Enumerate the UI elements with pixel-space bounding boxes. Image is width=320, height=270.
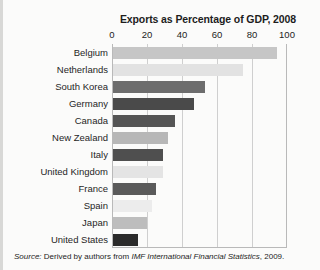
source-text: Derived by authors from — [44, 252, 129, 261]
x-tick-60: 60 — [212, 29, 223, 40]
category-label-netherlands: Netherlands — [4, 64, 108, 75]
chart-title: Exports as Percentage of GDP, 2008 — [108, 13, 308, 25]
bar-japan — [112, 217, 147, 229]
category-label-italy: Italy — [4, 149, 108, 160]
bar-germany — [112, 98, 194, 110]
bar-row — [112, 44, 287, 61]
bar-france — [112, 183, 156, 195]
category-label-france: France — [4, 183, 108, 194]
figure-left-edge — [0, 0, 3, 270]
bar-row — [112, 112, 287, 129]
category-label-new-zealand: New Zealand — [4, 132, 108, 143]
x-tick-80: 80 — [247, 29, 258, 40]
bar-row — [112, 129, 287, 146]
x-tick-100: 100 — [279, 29, 295, 40]
bar-netherlands — [112, 64, 243, 76]
bar-canada — [112, 115, 175, 127]
source-prefix: Source: — [14, 252, 42, 261]
category-axis-labels: BelgiumNetherlandsSouth KoreaGermanyCana… — [4, 44, 108, 248]
category-label-canada: Canada — [4, 115, 108, 126]
bar-row — [112, 180, 287, 197]
chart-figure: Exports as Percentage of GDP, 2008 02040… — [0, 0, 320, 270]
bar-row — [112, 146, 287, 163]
bar-new-zealand — [112, 132, 168, 144]
category-label-germany: Germany — [4, 98, 108, 109]
bar-south-korea — [112, 81, 205, 93]
source-note: Source: Derived by authors from IMF Inte… — [14, 252, 284, 261]
x-tick-40: 40 — [177, 29, 188, 40]
category-label-united-kingdom: United Kingdom — [4, 166, 108, 177]
bar-italy — [112, 149, 163, 161]
category-label-united-states: United States — [4, 234, 108, 245]
bar-row — [112, 231, 287, 248]
category-label-south-korea: South Korea — [4, 81, 108, 92]
bar-row — [112, 78, 287, 95]
bar-united-kingdom — [112, 166, 163, 178]
x-tick-0: 0 — [109, 29, 114, 40]
source-citation: IMF International Financial Statistics — [131, 252, 259, 261]
bar-row — [112, 214, 287, 231]
plot-area — [112, 44, 287, 248]
x-axis-tick-labels: 020406080100 — [112, 29, 287, 42]
category-label-belgium: Belgium — [4, 47, 108, 58]
bar-row — [112, 197, 287, 214]
category-label-spain: Spain — [4, 200, 108, 211]
bar-united-states — [112, 234, 138, 246]
bar-row — [112, 95, 287, 112]
category-label-japan: Japan — [4, 217, 108, 228]
bar-row — [112, 61, 287, 78]
x-tick-20: 20 — [142, 29, 153, 40]
bar-row — [112, 163, 287, 180]
bar-spain — [112, 200, 152, 212]
source-year: , 2009. — [260, 252, 284, 261]
bar-belgium — [112, 47, 277, 59]
